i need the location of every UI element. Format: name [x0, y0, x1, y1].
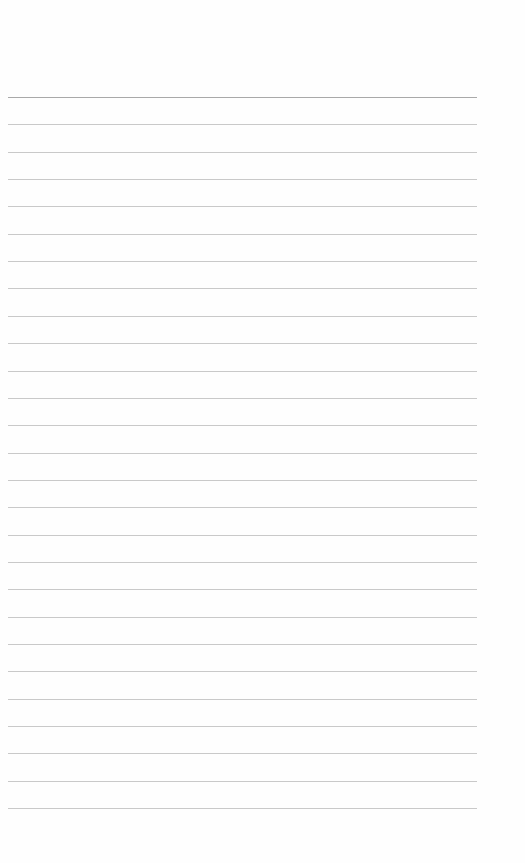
ruled-line	[8, 316, 477, 317]
ruled-line	[8, 206, 477, 207]
ruled-line	[8, 234, 477, 235]
ruled-line	[8, 97, 477, 98]
ruled-line	[8, 152, 477, 153]
ruled-line	[8, 753, 477, 754]
ruled-line	[8, 453, 477, 454]
ruled-line	[8, 617, 477, 618]
ruled-line	[8, 726, 477, 727]
ruled-line	[8, 562, 477, 563]
ruled-line	[8, 124, 477, 125]
ruled-line	[8, 535, 477, 536]
ruled-line	[8, 288, 477, 289]
ruled-line	[8, 261, 477, 262]
ruled-line	[8, 480, 477, 481]
ruled-line	[8, 371, 477, 372]
ruled-line	[8, 425, 477, 426]
ruled-line	[8, 699, 477, 700]
ruled-line	[8, 671, 477, 672]
ruled-line	[8, 343, 477, 344]
ruled-line	[8, 781, 477, 782]
lined-paper-page	[0, 0, 525, 863]
ruled-line	[8, 589, 477, 590]
ruled-line	[8, 644, 477, 645]
ruled-line	[8, 398, 477, 399]
ruled-line	[8, 808, 477, 809]
ruled-line	[8, 179, 477, 180]
ruled-line	[8, 507, 477, 508]
